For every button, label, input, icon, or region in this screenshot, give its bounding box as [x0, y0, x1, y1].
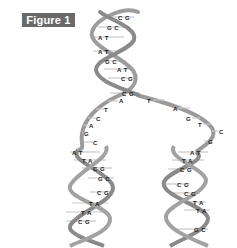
base-label: A	[89, 123, 94, 129]
base-pair-label: G C	[105, 59, 117, 65]
base-pair-label: C G	[97, 190, 109, 196]
base-pair-label: G C	[194, 227, 206, 233]
base-pair-label: C G	[78, 219, 90, 225]
base-label: G	[84, 131, 89, 137]
base-label: T	[104, 107, 108, 113]
base-label: A	[119, 98, 124, 104]
left-fork-strand	[78, 96, 118, 150]
base-pair-label: C G	[180, 167, 192, 173]
base-pair-label: C G	[122, 91, 134, 97]
base-label: G	[208, 139, 213, 145]
base-pair-label: T A	[196, 208, 207, 214]
base-pair-label: T A	[81, 210, 92, 216]
base-label: G	[186, 116, 191, 122]
base-label: T	[147, 98, 151, 104]
base-pair-label: C G	[184, 191, 196, 197]
base-label: A	[173, 106, 178, 112]
base-pair-label: T A	[89, 201, 100, 207]
base-label: T	[198, 122, 202, 128]
base-pair-label: T A	[193, 200, 204, 206]
base-pair-label: G C	[107, 25, 119, 31]
base-pair-label: C G	[93, 166, 105, 172]
base-pair-label: G C	[98, 176, 110, 182]
base-pair-label: T A	[82, 158, 93, 164]
base-label: C	[96, 116, 101, 122]
base-label: C	[219, 129, 224, 135]
base-pair-label: T A	[182, 158, 193, 164]
base-pair-label: A T	[117, 67, 128, 73]
right-fork-strand	[140, 96, 218, 152]
base-label: C	[93, 140, 98, 146]
base-pair-label: C G	[118, 15, 130, 21]
base-pair-label: A T	[98, 35, 109, 41]
base-pair-label: A T	[72, 150, 83, 156]
base-pair-label: A T	[190, 150, 201, 156]
base-pair-label: C G	[121, 76, 133, 82]
base-pair-label: A T	[98, 49, 109, 55]
base-pair-label: C G	[177, 182, 189, 188]
